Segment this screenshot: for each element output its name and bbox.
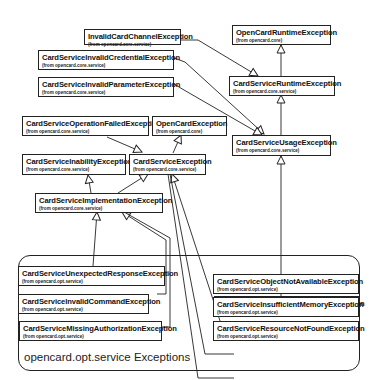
class-opencard-exception[interactable]: OpenCardException (from opencard.core) [152, 116, 227, 136]
class-card-service-missing-authorization-exception[interactable]: CardServiceMissingAuthorizationException… [19, 321, 162, 341]
class-package: (from opencard.core.service) [39, 206, 159, 212]
class-card-service-runtime-exception[interactable]: CardServiceRuntimeException (from openca… [229, 76, 335, 96]
class-card-service-insufficient-memory-exception[interactable]: CardServiceInsufficientMemoryException (… [213, 297, 359, 317]
class-package: (from opencard.opt.service) [22, 279, 161, 285]
class-package: (from opencard.opt.service) [22, 307, 145, 313]
class-card-service-invalid-parameter-exception[interactable]: CardServiceInvalidParameterException (fr… [38, 77, 174, 97]
class-package: (from opencard.core.service) [233, 89, 331, 95]
class-name: InvalidCardChannelException [88, 32, 177, 42]
class-package: (from opencard.core.service) [236, 148, 327, 154]
class-card-service-invalid-credential-exception[interactable]: CardServiceInvalidCredentialException (f… [38, 50, 174, 70]
class-name: CardServiceInabilityException [26, 157, 122, 167]
class-package: (from opencard.core.service) [88, 42, 177, 48]
class-package: (from opencard.opt.service) [217, 287, 355, 293]
class-card-service-unexpected-response-exception[interactable]: CardServiceUnexpectedResponseException (… [18, 266, 165, 286]
class-name: CardServiceRuntimeException [233, 79, 331, 89]
class-card-service-exception[interactable]: CardServiceException (from opencard.core… [129, 154, 206, 175]
class-name: CardServiceInsufficientMemoryException [217, 300, 355, 310]
package-label: opencard.opt.service Exceptions [24, 351, 190, 363]
class-name: CardServiceUnexpectedResponseException [22, 269, 161, 279]
class-opencard-runtime-exception[interactable]: OpenCardRuntimeException (from opencard.… [232, 25, 331, 45]
class-name: OpenCardRuntimeException [236, 28, 327, 38]
class-diagram-canvas: opencard.opt.service Exceptions InvalidC… [0, 0, 372, 380]
class-name: CardServiceInvalidCommandException [22, 297, 145, 307]
class-package: (from opencard.core.service) [26, 167, 122, 173]
class-invalid-card-channel-exception[interactable]: InvalidCardChannelException (from openca… [84, 29, 181, 45]
class-card-service-inability-exception[interactable]: CardServiceInabilityException (from open… [22, 154, 126, 175]
class-name: CardServiceUsageException [236, 138, 327, 148]
class-name: CardServiceImplementationException [39, 196, 159, 206]
class-package: (from opencard.core) [236, 38, 327, 44]
class-name: CardServiceOperationFailedException [26, 119, 145, 129]
class-name: CardServiceInvalidParameterException [42, 80, 170, 90]
class-package: (from opencard.opt.service) [217, 310, 355, 316]
class-name: OpenCardException [156, 119, 223, 129]
class-card-service-invalid-command-exception[interactable]: CardServiceInvalidCommandException (from… [18, 294, 149, 314]
class-name: CardServiceObjectNotAvailableException [217, 277, 355, 287]
class-package: (from opencard.core.service) [42, 90, 170, 96]
class-package: (from opencard.core.service) [42, 63, 170, 69]
class-name: CardServiceException [133, 157, 202, 167]
class-package: (from opencard.core.service) [133, 167, 202, 173]
class-name: CardServiceInvalidCredentialException [42, 53, 170, 63]
class-card-service-object-not-available-exception[interactable]: CardServiceObjectNotAvailableException (… [213, 274, 359, 294]
class-package: (from opencard.core.service) [26, 129, 145, 135]
class-package: (from opencard.opt.service) [23, 334, 158, 340]
class-name: CardServiceResourceNotFoundException [217, 324, 355, 334]
class-package: (from opencard.opt.service) [217, 334, 355, 340]
class-name: CardServiceMissingAuthorizationException [23, 324, 158, 334]
class-card-service-resource-not-found-exception[interactable]: CardServiceResourceNotFoundException (fr… [213, 321, 359, 341]
class-card-service-operation-failed-exception[interactable]: CardServiceOperationFailedException (fro… [22, 116, 149, 136]
class-card-service-implementation-exception[interactable]: CardServiceImplementationException (from… [35, 193, 163, 213]
class-card-service-usage-exception[interactable]: CardServiceUsageException (from opencard… [232, 135, 331, 156]
class-package: (from opencard.core) [156, 129, 223, 135]
